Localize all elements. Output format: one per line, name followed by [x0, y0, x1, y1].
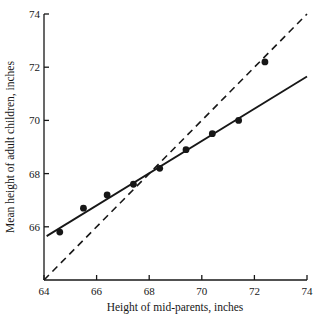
data-point — [80, 205, 87, 212]
data-point — [235, 117, 242, 124]
x-tick-label: 64 — [39, 286, 50, 297]
data-point — [130, 181, 137, 188]
y-tick-label: 74 — [22, 9, 40, 20]
y-axis-title: Mean height of adult children, inches — [4, 61, 16, 233]
y-axis-ticks — [44, 14, 49, 227]
data-point — [209, 130, 216, 137]
data-point — [183, 146, 190, 153]
x-axis-ticks — [44, 275, 307, 280]
y-tick-label: 68 — [22, 168, 40, 179]
x-tick-label: 66 — [91, 286, 102, 297]
x-tick-label: 70 — [196, 286, 207, 297]
x-tick-label: 68 — [144, 286, 155, 297]
data-point — [156, 165, 163, 172]
y-tick-label: 70 — [22, 115, 40, 126]
plot-canvas — [0, 0, 325, 324]
data-points — [56, 58, 268, 235]
data-point — [104, 191, 111, 198]
trend-lines — [44, 14, 307, 280]
scatter-plot-figure: 646668707274 6668707274 Height of mid-pa… — [0, 0, 325, 324]
y-tick-label: 66 — [22, 221, 40, 232]
equality-line — [44, 14, 307, 280]
regression-line — [47, 77, 307, 237]
y-tick-label: 72 — [22, 62, 40, 73]
data-point — [56, 229, 63, 236]
x-axis-title: Height of mid-parents, inches — [107, 301, 244, 313]
x-tick-label: 72 — [249, 286, 260, 297]
data-point — [262, 58, 269, 65]
x-tick-label: 74 — [302, 286, 313, 297]
